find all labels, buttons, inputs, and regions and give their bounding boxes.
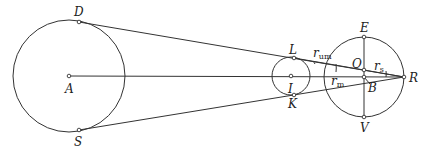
line-s-r: [79, 77, 404, 130]
label-o: O: [352, 57, 362, 71]
label-r-um: rum: [313, 46, 332, 61]
label-l: L: [288, 43, 297, 57]
point-d: [77, 20, 81, 24]
label-b: B: [367, 81, 377, 95]
line-o-r: [364, 70, 404, 77]
eclipse-geometry-diagram: D A S L I K E O B V R rum rm rs: [0, 0, 426, 151]
point-s: [77, 128, 81, 132]
line-a-r: [69, 76, 404, 77]
label-r-s: rs: [374, 59, 384, 74]
point-r: [402, 75, 406, 79]
point-a: [67, 74, 71, 78]
label-a: A: [64, 82, 74, 96]
label-i: I: [287, 82, 293, 96]
point-b: [362, 75, 366, 79]
label-k: K: [287, 97, 298, 111]
label-r: R: [408, 71, 418, 85]
label-d: D: [73, 5, 84, 19]
point-o: [362, 68, 366, 72]
point-i: [289, 74, 293, 78]
label-r-m: rm: [331, 74, 345, 89]
label-e: E: [359, 21, 369, 35]
point-v: [362, 115, 366, 119]
point-e: [362, 35, 366, 39]
label-v: V: [360, 121, 370, 135]
label-s: S: [74, 135, 82, 149]
